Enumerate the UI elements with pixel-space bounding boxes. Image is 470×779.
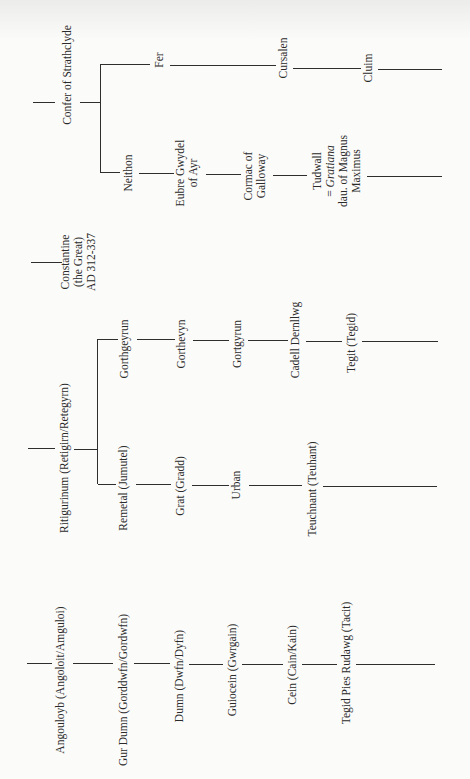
person-ritigurinum: Ritigurinum (Retigirn/Retegyrn): [58, 383, 71, 533]
person-cursalen: Cursalen: [277, 38, 290, 79]
ritigurinum-root-line-out: [74, 449, 98, 450]
person-cadell-dernllwg: Cadell Dernllwg: [289, 302, 302, 378]
person-confer-of-strathclyde: Confer of Strathclyde: [61, 25, 74, 125]
neithon-branch-line: [101, 172, 120, 173]
remetal-line-3: [249, 485, 302, 486]
gorthgeyrun-line-5: [362, 341, 438, 342]
gorthgeyrun-line-4: [306, 341, 342, 342]
fer-line-2: [293, 68, 361, 69]
gorthgeyrun-line-3: [248, 340, 288, 341]
constantine-line-2: (the Great): [72, 233, 85, 291]
person-urban: Urban: [230, 471, 243, 500]
person-tegit: Tegit (Tegid): [345, 313, 358, 373]
gorthgeyrun-line-1: [137, 339, 175, 340]
person-teuchnant: Teuchnant (Teuhant): [306, 441, 319, 536]
angouloyb-line-6: [356, 664, 435, 665]
person-gur-dumn: Gur Dumn (Gorddwfn/Gordwfn): [117, 614, 130, 766]
cormac-line-1: Cormac of: [242, 152, 255, 201]
tudwall-line-3: dau. of Magnus: [337, 135, 350, 207]
person-cluim: Cluim: [362, 54, 375, 83]
eubre-line-2: of Ayr: [187, 140, 200, 207]
angouloyb-line-3: [189, 664, 223, 665]
person-gorthgeyrun: Gorthgeyrun: [118, 320, 131, 379]
constantine-line-3: AD 312-337: [85, 233, 98, 291]
tudwall-line-4: Maximus: [350, 135, 363, 207]
angouloyb-line-2: [134, 663, 170, 664]
strathclyde-root-line-out: [80, 102, 101, 103]
tudwall-spouse: = Gratiana: [324, 135, 337, 207]
person-remetal: Remetal (Jumutel): [117, 445, 130, 530]
neithon-line-1: [139, 173, 174, 174]
remetal-branch-line: [98, 484, 116, 485]
neithon-line-3: [273, 175, 307, 176]
angouloyb-line-0: [27, 663, 52, 664]
angouloyb-line-1: [73, 663, 113, 664]
tudwall-eq: =: [324, 187, 336, 196]
cormac-line-2: Galloway: [255, 152, 268, 201]
remetal-line-4: [323, 486, 437, 487]
constantine-line-1: Constantine: [59, 233, 72, 291]
angouloyb-line-4: [242, 664, 283, 665]
eubre-line-1: Eubre Gwydel: [174, 140, 187, 207]
fer-line-1: [170, 65, 276, 66]
remetal-line-1: [136, 484, 171, 485]
gorthgeyrun-branch-line: [98, 339, 118, 340]
angouloyb-line-5: [302, 664, 337, 665]
tudwall-name: Tudwall: [311, 135, 324, 207]
ritigurinum-bracket: [97, 339, 98, 484]
tudwall-spouse-name: Gratiana: [324, 145, 336, 187]
person-gortgyrun: Gortgyrun: [231, 320, 244, 368]
neithon-line-2: [206, 174, 241, 175]
constantine-line: [31, 262, 62, 263]
person-tegid-pies-rudawg: Tegid Pies Rudawg (Tacit): [340, 602, 353, 725]
person-fer: Fer: [153, 52, 166, 67]
person-neithon: Neithon: [122, 154, 135, 191]
remetal-line-2: [192, 485, 229, 486]
fer-line-3: [378, 69, 442, 70]
person-tudwall: Tudwall = Gratiana dau. of Magnus Maximu…: [311, 135, 363, 207]
strathclyde-bracket: [100, 64, 101, 173]
person-eubre-gwydel-of-ayr: Eubre Gwydel of Ayr: [174, 140, 200, 207]
person-cormac-of-galloway: Cormac of Galloway: [242, 152, 268, 201]
neithon-line-4: [367, 176, 442, 177]
gorthgeyrun-line-2: [193, 340, 229, 341]
person-gorthevyn: Gorthevyn: [175, 319, 188, 368]
person-angouloyb: Angouloyb (Angoloit/Amguloi): [54, 606, 67, 753]
ritigurinum-root-line-in: [28, 448, 55, 449]
person-constantine-the-great: Constantine (the Great) AD 312-337: [59, 233, 98, 291]
person-grat: Grat (Gradd): [174, 456, 187, 516]
person-cein: Cein (Cain/Kain): [286, 625, 299, 705]
person-dumn: Dumn (Dwfn/Dyfn): [173, 630, 186, 722]
person-guiocein: Guiocein (Gwrgain): [226, 624, 239, 717]
strathclyde-root-line-in: [33, 102, 55, 103]
genealogy-chart: Confer of Strathclyde Fer Cursalen Cluim…: [0, 0, 470, 779]
fer-branch-line: [101, 64, 150, 65]
